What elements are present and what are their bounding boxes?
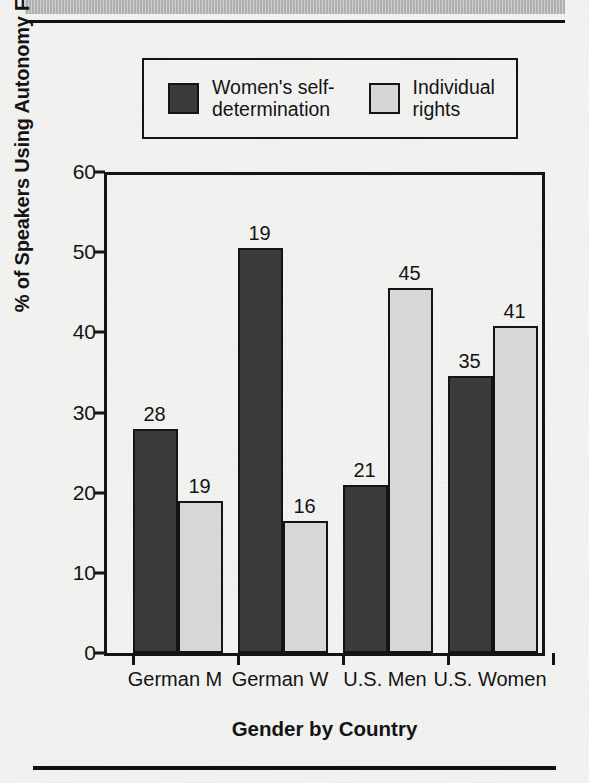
legend-label-womens-self-determination: Women's self- determination <box>212 77 335 121</box>
bar-german-m-self-determination <box>133 429 178 653</box>
bar-count-label: 45 <box>398 262 420 285</box>
bar-u-s-men-individual-rights <box>388 288 433 653</box>
y-tick-label-30: 30 <box>52 401 96 425</box>
legend-entry-individual-rights: Individual rights <box>369 77 495 121</box>
bar-german-w-self-determination <box>238 248 283 653</box>
bar-german-w-individual-rights <box>283 521 328 653</box>
bottom-divider-rule <box>33 766 556 770</box>
x-tick-label-u-s-men: U.S. Men <box>343 668 426 691</box>
bar-count-label: 21 <box>353 459 375 482</box>
x-tick-mark-3 <box>447 653 450 665</box>
bars-layer <box>107 175 542 653</box>
bar-count-label: 19 <box>188 475 210 498</box>
legend-swatch-dark-icon <box>168 83 199 114</box>
bar-count-label: 16 <box>293 495 315 518</box>
bar-u-s-women-self-determination <box>448 376 493 653</box>
bar-count-label: 41 <box>503 300 525 323</box>
x-tick-mark-2 <box>342 653 345 665</box>
y-tick-label-50: 50 <box>52 240 96 264</box>
legend-entry-womens-self-determination: Women's self- determination <box>168 77 335 121</box>
y-tick-label-60: 60 <box>52 160 96 184</box>
bar-u-s-men-self-determination <box>343 485 388 653</box>
y-axis-title-wrapper: % of Speakers Using Autonomy Frame <box>12 172 42 656</box>
legend-label-individual-rights: Individual rights <box>413 77 495 121</box>
top-divider-rule <box>25 20 565 23</box>
bar-count-label: 35 <box>458 350 480 373</box>
bar-u-s-women-individual-rights <box>493 326 538 653</box>
y-tick-label-20: 20 <box>52 481 96 505</box>
bar-count-label: 19 <box>248 222 270 245</box>
chart-legend: Women's self- determination Individual r… <box>142 58 518 139</box>
scanned-page: p y p Women's self- determination Indivi… <box>0 0 589 783</box>
x-tick-mark-0 <box>132 653 135 665</box>
y-tick-label-0: 0 <box>52 641 96 665</box>
x-tick-mark-4 <box>552 653 555 665</box>
y-tick-label-40: 40 <box>52 320 96 344</box>
bar-german-m-individual-rights <box>178 501 223 653</box>
x-tick-label-u-s-women: U.S. Women <box>434 668 547 691</box>
clipped-header-text: p y p <box>25 0 565 5</box>
x-tick-mark-1 <box>237 653 240 665</box>
legend-swatch-light-icon <box>369 83 400 114</box>
x-tick-label-german-w: German W <box>232 668 329 691</box>
x-tick-label-german-m: German M <box>128 668 222 691</box>
x-axis-title: Gender by Country <box>104 717 545 741</box>
y-axis-title: % of Speakers Using Autonomy Frame <box>7 0 37 374</box>
plot-area <box>104 172 545 656</box>
bar-count-label: 28 <box>143 403 165 426</box>
y-tick-label-10: 10 <box>52 561 96 585</box>
